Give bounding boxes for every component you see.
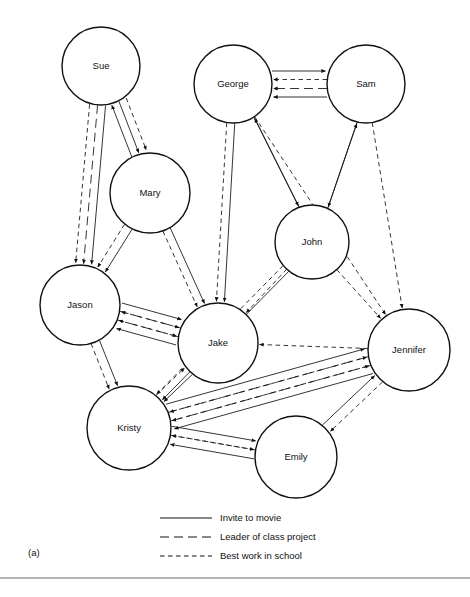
edge-sue-to-jason: [92, 106, 106, 265]
node-jake[interactable]: Jake: [178, 303, 258, 383]
node-label-sam: Sam: [356, 78, 376, 89]
edge-jennifer-to-kristy: [174, 374, 373, 429]
node-label-kristy: Kristy: [117, 422, 141, 433]
edge-sue-to-jason: [76, 104, 90, 263]
nodes-layer: SueGeorgeSamMaryJohnJasonJakeJenniferKri…: [40, 27, 450, 498]
edge-john-to-sam: [328, 124, 357, 209]
edge-george-to-jake: [224, 123, 234, 302]
node-kristy[interactable]: Kristy: [87, 386, 171, 470]
node-label-jason: Jason: [67, 299, 92, 310]
edge-mary-to-jason: [105, 229, 132, 272]
edge-jason-to-jake: [122, 303, 181, 319]
edge-sue-to-mary: [126, 98, 146, 150]
node-john[interactable]: John: [275, 205, 349, 279]
sociogram-figure: SueGeorgeSamMaryJohnJasonJakeJenniferKri…: [0, 0, 470, 597]
legend-label-leader-of-class-project: Leader of class project: [220, 531, 316, 542]
legend: Invite to movieLeader of class projectBe…: [160, 512, 316, 561]
node-jason[interactable]: Jason: [40, 265, 120, 345]
edge-mary-to-sue: [112, 105, 132, 157]
edge-jake-to-jason: [117, 329, 176, 345]
legend-item-leader-of-class-project: Leader of class project: [160, 531, 316, 542]
edge-john-to-jake: [246, 269, 287, 313]
panel-label: (a): [28, 547, 40, 558]
edge-mary-to-jake: [170, 228, 204, 304]
edge-john-to-george: [255, 118, 299, 207]
node-label-john: John: [302, 236, 323, 247]
node-label-mary: Mary: [139, 187, 160, 198]
edge-jason-to-kristy: [99, 340, 117, 385]
edge-sam-to-jennifer: [372, 123, 402, 309]
edge-jennifer-to-emily: [330, 382, 382, 432]
node-label-jennifer: Jennifer: [392, 344, 426, 355]
node-label-sue: Sue: [93, 60, 110, 71]
edge-jake-to-kristy: [164, 374, 193, 401]
node-george[interactable]: George: [194, 45, 272, 123]
node-jennifer[interactable]: Jennifer: [368, 309, 450, 391]
edge-mary-to-jake: [163, 231, 197, 307]
node-mary[interactable]: Mary: [110, 153, 190, 233]
legend-label-invite-to-movie: Invite to movie: [220, 512, 281, 523]
edge-john-to-jennifer: [337, 270, 381, 319]
legend-item-best-work-in-school: Best work in school: [160, 550, 302, 561]
edge-jason-to-kristy: [91, 344, 109, 389]
node-label-emily: Emily: [284, 451, 307, 462]
edge-george-to-jake: [216, 123, 226, 302]
edge-sue-to-jason: [84, 105, 98, 264]
edge-kristy-to-emily: [172, 426, 256, 441]
edge-mary-to-jason: [98, 224, 125, 267]
edge-emily-to-jennifer: [322, 376, 374, 426]
node-label-jake: Jake: [208, 337, 228, 348]
node-sam[interactable]: Sam: [327, 45, 405, 123]
legend-item-invite-to-movie: Invite to movie: [160, 512, 281, 523]
node-sue[interactable]: Sue: [62, 27, 140, 105]
node-emily[interactable]: Emily: [255, 416, 337, 498]
edge-sue-to-mary: [119, 101, 139, 153]
edge-emily-to-kristy: [170, 444, 254, 459]
network-diagram-svg: SueGeorgeSamMaryJohnJasonJakeJenniferKri…: [0, 0, 470, 597]
node-label-george: George: [217, 78, 249, 89]
legend-label-best-work-in-school: Best work in school: [220, 550, 302, 561]
edge-jennifer-to-jake: [259, 345, 368, 349]
